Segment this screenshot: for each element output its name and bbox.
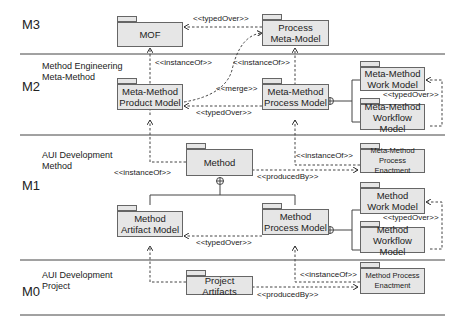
- package-process-meta-model[interactable]: Process Meta-Model: [262, 14, 329, 46]
- package-project-artifacts[interactable]: Project Artifacts: [186, 270, 253, 295]
- rel-m1-instance-of-right: <<instanceOf>>: [296, 151, 353, 160]
- package-meta-method-process-enactment[interactable]: Meta-Method Process Enactment: [360, 143, 425, 173]
- rel-m2-merge: <<merge>>: [216, 84, 257, 93]
- rel-m0-produced-by: <<producedBy>>: [257, 290, 318, 299]
- package-method-artifact-model[interactable]: Method Artifact Model: [117, 205, 183, 237]
- package-mof[interactable]: MOF: [117, 16, 183, 47]
- package-method-workflow-model[interactable]: Method Workflow Model: [360, 221, 425, 253]
- package-meta-method-product-model[interactable]: Meta-Method Product Model: [117, 78, 183, 110]
- package-method[interactable]: Method: [186, 143, 253, 176]
- level-label-m1: M1: [22, 178, 40, 193]
- rel-m2-instance-of-left: <<instanceOf>>: [155, 58, 212, 67]
- level-description-m0: AUI Development Project: [42, 270, 113, 292]
- package-method-work-model[interactable]: Method Work Model: [360, 182, 425, 214]
- rel-m1-typed-over: <<typedOver>>: [196, 238, 252, 247]
- rel-m2-typed-over: <<typedOver>>: [196, 108, 252, 117]
- rel-m1-produced-by: <<producedBy>>: [257, 172, 318, 181]
- rel-m3-typed-over: <<typedOver>>: [193, 14, 249, 23]
- level-description-m1: AUI Development Method: [42, 150, 113, 172]
- package-meta-method-workflow-model[interactable]: Meta-Method Workflow Model: [360, 98, 425, 130]
- package-meta-method-process-model[interactable]: Meta-Method Process Model: [262, 78, 329, 110]
- rel-m1-work-typed-over: <<typedOver>>: [383, 213, 439, 222]
- level-label-m2: M2: [22, 79, 40, 94]
- level-label-m3: M3: [22, 17, 40, 32]
- rel-m1-instance-of-left: <<instanceOf>>: [114, 168, 171, 177]
- package-meta-method-work-model[interactable]: Meta-Method Work Model: [360, 61, 425, 91]
- rel-m0-instance-of: <<instanceOf>>: [300, 270, 357, 279]
- package-method-process-enactment[interactable]: Method Process Enactment: [360, 262, 425, 294]
- rel-m2-work-typed-over: <<typedOver>>: [383, 90, 439, 99]
- rel-m2-instance-of-right: <<instanceOf>>: [233, 58, 290, 67]
- package-method-process-model[interactable]: Method Process Model: [262, 203, 329, 235]
- metamodel-diagram: M3 M2 M1 M0 Method Engineering Meta-Meth…: [0, 0, 464, 327]
- level-description-m2: Method Engineering Meta-Method: [42, 61, 123, 83]
- level-label-m0: M0: [22, 284, 40, 299]
